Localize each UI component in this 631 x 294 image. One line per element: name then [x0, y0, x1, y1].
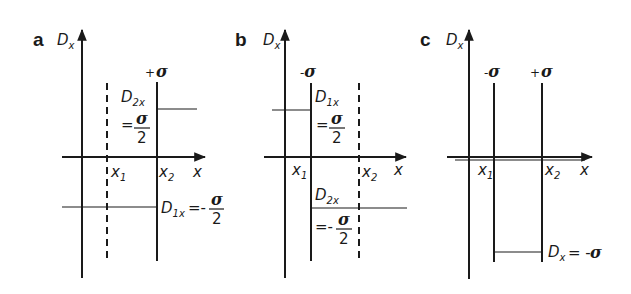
upper-field-label: D1x [315, 88, 339, 108]
field-label: Dx [548, 243, 566, 263]
x1-charge-label: -σ [484, 62, 500, 81]
upper-denominator: 2 [332, 129, 342, 147]
x1-label: x1 [477, 161, 493, 181]
lower-denominator: 2 [212, 210, 222, 228]
lower-numerator: σ [338, 210, 350, 229]
lower-eq-sign: =- [315, 218, 333, 236]
upper-numerator: σ [136, 109, 148, 128]
x1-charge-label: -σ [300, 62, 316, 81]
x1-label: x1 [110, 163, 126, 183]
upper-numerator: σ [331, 109, 343, 128]
x2-charge-label: +σ [145, 62, 168, 81]
upper-denominator: 2 [137, 129, 147, 147]
x2-label: x2 [544, 161, 560, 181]
upper-eq-sign: = [316, 116, 329, 134]
lower-field-label: D1x [161, 199, 185, 219]
d-axis-label: Dx [263, 31, 281, 51]
x-axis-label: x [192, 163, 202, 181]
lower-field-label: D2x [315, 186, 339, 206]
panel-a: a Dx x x1 x2 +σ D2x = σ 2 D1x =- σ 2 [33, 29, 224, 278]
x2-charge-label: +σ [530, 62, 553, 81]
panel-letter-c: c [420, 29, 431, 50]
x2-label: x2 [158, 163, 174, 183]
panel-b: b Dx x x1 x2 -σ D1x = σ 2 D2x =- σ 2 [235, 29, 407, 278]
d-axis-label: Dx [446, 31, 464, 51]
field-eq-sign: = - [568, 244, 591, 262]
x-axis-label: x [579, 161, 589, 179]
lower-denominator: 2 [339, 230, 349, 248]
lower-numerator: σ [211, 190, 223, 209]
charged-sheets-diagram: a Dx x x1 x2 +σ D2x = σ 2 D1x =- σ 2 b D… [0, 0, 631, 294]
x-axis-label: x [393, 161, 403, 179]
lower-eq-sign: =- [188, 199, 206, 217]
panel-letter-b: b [235, 29, 247, 50]
x2-label: x2 [361, 163, 377, 183]
field-value: σ [590, 243, 602, 262]
x1-label: x1 [291, 161, 307, 181]
d-axis-label: Dx [57, 31, 75, 51]
panel-letter-a: a [33, 29, 44, 50]
upper-field-label: D2x [121, 88, 145, 108]
panel-c: c Dx x x1 x2 -σ +σ Dx = - σ [420, 29, 602, 279]
upper-eq-sign: = [121, 116, 134, 134]
